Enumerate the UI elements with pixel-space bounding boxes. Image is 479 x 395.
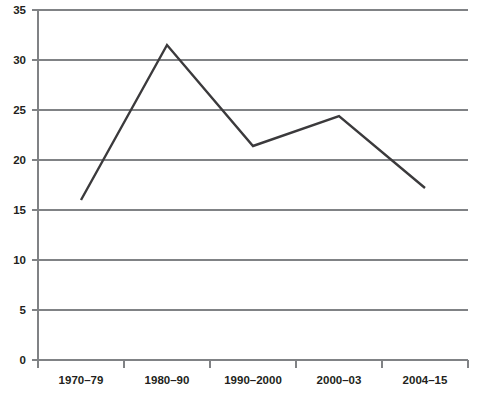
y-tick-label-10: 10 bbox=[13, 254, 26, 266]
x-tick-label-2000-03: 2000–03 bbox=[317, 374, 362, 386]
data-series-line bbox=[81, 45, 425, 200]
x-tick-labels: 1970–79 1980–90 1990–2000 2000–03 2004–1… bbox=[59, 374, 448, 386]
y-gridlines bbox=[38, 10, 468, 360]
y-tick-label-35: 35 bbox=[13, 4, 26, 16]
x-axis bbox=[38, 360, 468, 368]
y-axis bbox=[32, 10, 38, 365]
x-tick-label-1970-79: 1970–79 bbox=[59, 374, 104, 386]
line-chart: 35 30 25 20 15 10 5 0 1970–79 1980–90 19… bbox=[0, 0, 479, 395]
y-tick-label-5: 5 bbox=[20, 304, 27, 316]
y-tick-labels: 35 30 25 20 15 10 5 0 bbox=[13, 4, 26, 366]
data-series-group bbox=[81, 45, 425, 200]
y-tick-label-20: 20 bbox=[13, 154, 26, 166]
y-tick-label-30: 30 bbox=[13, 54, 26, 66]
y-tick-label-0: 0 bbox=[20, 354, 26, 366]
x-tick-label-1980-90: 1980–90 bbox=[145, 374, 190, 386]
y-tick-label-15: 15 bbox=[13, 204, 26, 216]
y-tick-label-25: 25 bbox=[13, 104, 26, 116]
x-tick-label-1990-2000: 1990–2000 bbox=[224, 374, 282, 386]
x-tick-label-2004-15: 2004–15 bbox=[403, 374, 448, 386]
chart-canvas: 35 30 25 20 15 10 5 0 1970–79 1980–90 19… bbox=[0, 0, 479, 395]
